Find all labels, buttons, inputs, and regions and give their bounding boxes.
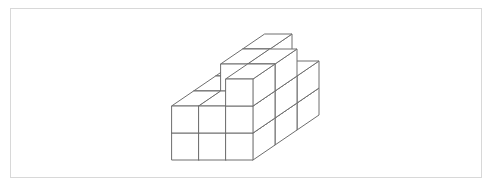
cube-face-front [199, 106, 226, 133]
cube-group [172, 34, 319, 160]
cube-face-front [226, 79, 253, 106]
isometric-cube-figure [0, 0, 494, 189]
cube-face-front [199, 133, 226, 160]
cube-face-front [172, 133, 199, 160]
cube-face-front [226, 106, 253, 133]
cube-face-front [172, 106, 199, 133]
cube-face-front [226, 133, 253, 160]
